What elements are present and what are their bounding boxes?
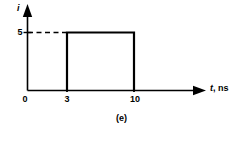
y-tick-label-5: 5: [15, 28, 25, 37]
waveform-plot: [0, 0, 243, 145]
x-tick-label-3: 3: [61, 95, 73, 104]
figure-container: i t, ns 5 0 3 10 (e): [0, 0, 243, 145]
x-tick-label-10: 10: [127, 95, 143, 104]
x-axis-title: t, ns: [210, 84, 229, 93]
x-tick-label-0: 0: [19, 95, 31, 104]
y-axis-arrowhead-icon: [23, 4, 32, 17]
pulse-waveform-path: [67, 33, 134, 91]
figure-caption: (e): [0, 114, 243, 123]
y-axis-title: i: [17, 4, 20, 13]
x-axis-title-unit: , ns: [213, 83, 229, 93]
x-axis-arrowhead-icon: [193, 86, 206, 95]
